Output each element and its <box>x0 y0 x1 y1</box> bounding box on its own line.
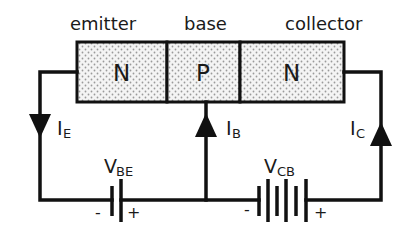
vcb-positive-sign: + <box>314 203 327 222</box>
collector-label: collector <box>285 13 363 34</box>
base-current-arrow-icon <box>195 113 217 137</box>
svg-text:I: I <box>226 117 232 139</box>
base-current-label: I B <box>226 117 241 141</box>
collector-current-arrow-icon <box>370 122 392 146</box>
collector-type-label: N <box>283 60 300 86</box>
emitter-type-label: N <box>113 60 130 86</box>
base-type-label: P <box>196 60 210 86</box>
base-label: base <box>184 13 227 34</box>
emitter-current-arrow-icon <box>29 114 51 138</box>
vcb-negative-sign: - <box>244 200 250 219</box>
svg-text:CB: CB <box>277 164 295 179</box>
svg-text:B: B <box>232 126 241 141</box>
vbe-negative-sign: - <box>95 203 101 222</box>
collector-current-label: I C <box>350 117 365 141</box>
svg-text:E: E <box>63 126 71 141</box>
svg-text:I: I <box>57 117 63 139</box>
npn-transistor-diagram: emitter base collector N P N I E I B I C… <box>0 0 419 234</box>
svg-text:BE: BE <box>116 164 133 179</box>
svg-text:C: C <box>356 126 365 141</box>
svg-text:I: I <box>350 117 356 139</box>
vbe-positive-sign: + <box>127 203 140 222</box>
emitter-label: emitter <box>70 13 137 34</box>
emitter-current-label: I E <box>57 117 71 141</box>
vcb-label: V CB <box>264 155 295 179</box>
vcb-battery-icon <box>259 179 306 222</box>
svg-text:V: V <box>264 155 277 177</box>
vbe-label: V BE <box>104 155 133 179</box>
vbe-battery-icon <box>112 179 121 222</box>
